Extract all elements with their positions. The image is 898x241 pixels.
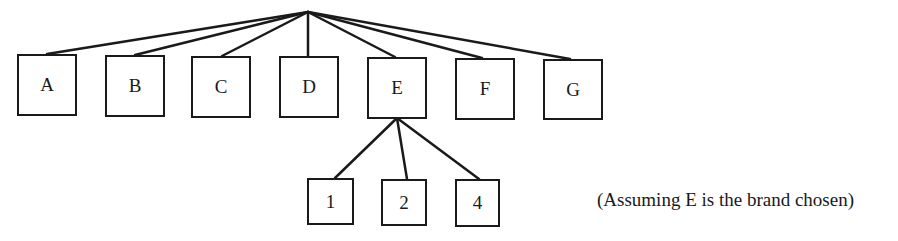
child-label: 1 — [326, 191, 336, 213]
brand-box-b: B — [105, 55, 165, 117]
brand-label: C — [215, 76, 228, 98]
edge-E-4 — [397, 118, 479, 179]
child-box-1: 1 — [307, 178, 354, 225]
child-box-2: 2 — [381, 179, 427, 226]
assumption-note: (Assuming E is the brand chosen) — [597, 189, 854, 211]
edge-root-B — [135, 12, 308, 55]
brand-label: G — [566, 79, 580, 101]
brand-box-c: C — [191, 56, 251, 118]
brand-box-e: E — [367, 57, 427, 119]
edge-E-2 — [397, 118, 407, 179]
brand-box-f: F — [455, 58, 515, 120]
brand-label: F — [480, 78, 491, 100]
brand-label: B — [129, 75, 142, 97]
child-label: 2 — [399, 192, 409, 214]
brand-box-d: D — [279, 56, 339, 118]
brand-box-a: A — [17, 54, 77, 116]
child-label: 4 — [473, 192, 483, 214]
child-box-4: 4 — [455, 179, 500, 227]
brand-label: E — [391, 77, 403, 99]
edge-root-F — [308, 12, 482, 58]
brand-box-g: G — [543, 59, 603, 120]
brand-label: A — [40, 74, 54, 96]
edge-root-G — [308, 12, 570, 59]
brand-label: D — [302, 76, 316, 98]
edge-E-1 — [335, 118, 397, 178]
